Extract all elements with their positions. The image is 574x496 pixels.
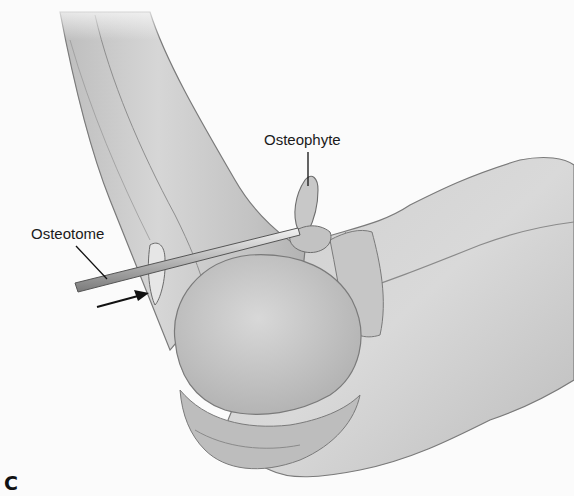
panel-label: C [4, 472, 18, 494]
direction-arrow [97, 290, 149, 307]
osteophyte-label: Osteophyte [264, 131, 341, 148]
osteophyte [290, 176, 331, 252]
distal-humerus-condyle [174, 255, 361, 469]
elbow-illustration [0, 0, 574, 496]
osteotome-label: Osteotome [31, 225, 104, 242]
osteotome-leader-line [76, 246, 107, 279]
